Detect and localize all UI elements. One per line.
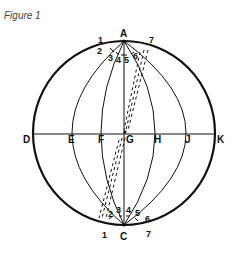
top-number-6: 6 (133, 51, 138, 61)
bottom-number-3: 3 (116, 205, 121, 215)
label-E: E (68, 134, 75, 145)
label-C: C (120, 231, 127, 242)
label-H: H (154, 134, 161, 145)
label-G: G (126, 134, 134, 145)
meridian-F (101, 41, 124, 225)
meridian-E (72, 41, 124, 225)
top-number-7: 7 (149, 35, 154, 45)
label-A: A (120, 28, 127, 39)
label-J: J (185, 134, 191, 145)
top-number-2: 2 (97, 46, 102, 56)
dashed-route-top-2 (128, 50, 148, 130)
bottom-number-5: 5 (135, 208, 140, 218)
label-F: F (98, 134, 104, 145)
bottom-number-1: 1 (102, 230, 107, 240)
top-number-3: 3 (108, 53, 113, 63)
bottom-number-6: 6 (145, 214, 150, 224)
point-C (123, 224, 126, 227)
top-number-5: 5 (124, 55, 129, 65)
label-D: D (23, 134, 30, 145)
label-K: K (217, 134, 225, 145)
point-A (123, 40, 126, 43)
bottom-number-2: 2 (108, 209, 113, 219)
bottom-number-4: 4 (126, 205, 131, 215)
bottom-number-7: 7 (146, 229, 151, 239)
top-number-1: 1 (98, 35, 103, 45)
top-number-4: 4 (116, 55, 121, 65)
globe-diagram: A C D E F G H J K 1 2 3 4 5 6 7 1 2 3 4 … (0, 0, 237, 255)
